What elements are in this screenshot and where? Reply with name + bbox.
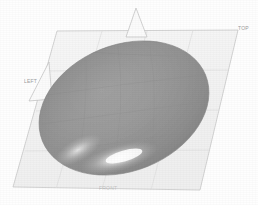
surface-plot-figure: TOP LEFT FRONT	[0, 0, 258, 205]
z-axis-arrow-icon	[126, 8, 147, 37]
axis-label-top: TOP	[238, 26, 249, 31]
axis-label-front: FRONT	[99, 186, 117, 191]
axis-label-left: LEFT	[24, 79, 37, 84]
axis-arrow-z	[126, 8, 147, 37]
plot-canvas	[0, 0, 258, 205]
